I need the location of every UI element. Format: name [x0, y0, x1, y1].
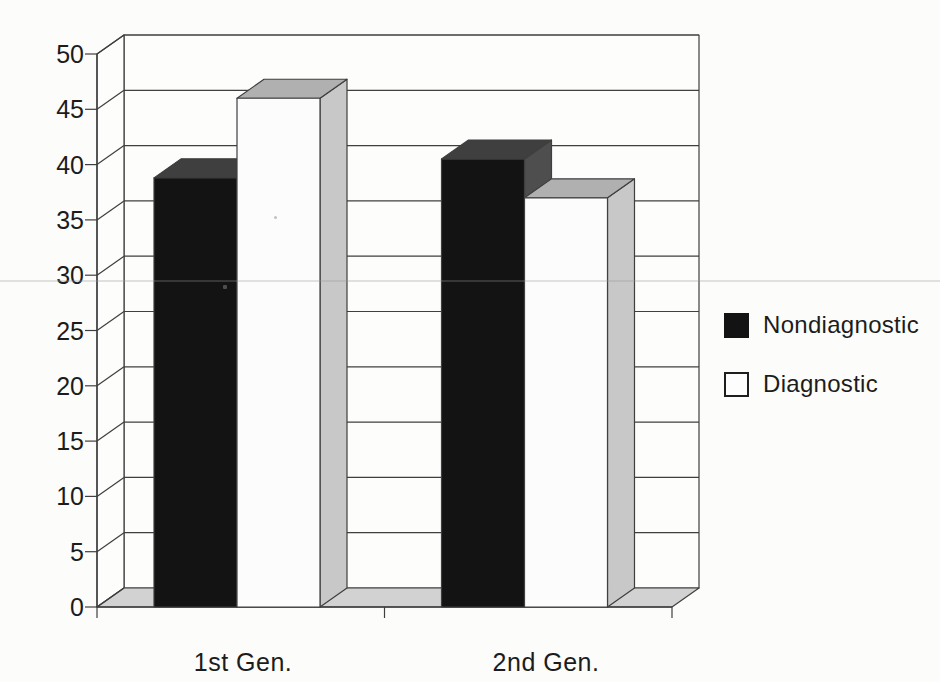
legend-label-diagnostic: Diagnostic	[763, 370, 878, 398]
y-tick-label-45: 45	[56, 95, 84, 123]
y-tick-label-5: 5	[70, 538, 84, 566]
scanned-chart-page: 05101520253035404550 1st Gen. 2nd Gen. N…	[0, 0, 940, 682]
bar-nondiagnostic-1st-gen-front-face	[154, 178, 237, 607]
y-tick-label-15: 15	[56, 427, 84, 455]
bar-diagnostic-2nd-gen-front-face	[525, 198, 608, 607]
bar-nondiagnostic-2nd-gen-front-face	[442, 159, 525, 607]
legend-item-nondiagnostic: Nondiagnostic	[724, 312, 919, 338]
bar-diagnostic-1st-gen-front-face	[237, 98, 320, 607]
bar-diagnostic-1st-gen-side-face	[320, 79, 347, 607]
y-tick-label-10: 10	[56, 482, 84, 510]
y-tick-label-35: 35	[56, 206, 84, 234]
legend-swatch-nondiagnostic	[724, 313, 749, 338]
legend: Nondiagnostic Diagnostic	[724, 312, 919, 397]
x-axis-category-label-1st-gen: 1st Gen.	[194, 648, 293, 677]
y-tick-label-30: 30	[56, 261, 84, 289]
bar-diagnostic-2nd-gen-side-face	[608, 179, 635, 607]
y-tick-label-20: 20	[56, 372, 84, 400]
legend-item-diagnostic: Diagnostic	[724, 371, 919, 397]
y-tick-label-40: 40	[56, 151, 84, 179]
legend-label-nondiagnostic: Nondiagnostic	[763, 311, 919, 339]
x-axis-category-label-2nd-gen: 2nd Gen.	[493, 648, 600, 677]
legend-swatch-diagnostic	[724, 372, 749, 397]
scan-speck-artifact	[274, 216, 277, 219]
y-tick-label-50: 50	[56, 40, 84, 68]
y-tick-label-0: 0	[70, 593, 84, 621]
y-tick-label-25: 25	[56, 317, 84, 345]
scan-speck-artifact	[223, 285, 227, 289]
